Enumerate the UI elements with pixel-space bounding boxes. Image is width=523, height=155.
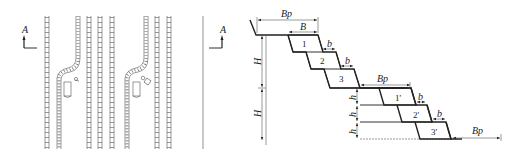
svg-text:3': 3' [431, 127, 438, 137]
svg-text:B: B [300, 21, 306, 32]
track-straight-2 [87, 16, 91, 149]
svg-text:2': 2' [413, 110, 420, 120]
svg-text:1: 1 [302, 39, 307, 49]
track-diverging-1 [57, 16, 80, 149]
svg-text:b: b [437, 108, 442, 119]
track-straight-1 [45, 16, 49, 149]
svg-text:H: H [252, 57, 263, 66]
dim-sub-height-h: h h h [347, 89, 358, 138]
svg-text:Bp: Bp [472, 125, 483, 136]
track-straight-5 [155, 16, 159, 149]
svg-text:A: A [219, 24, 227, 35]
svg-text:b: b [418, 91, 423, 102]
svg-text:h: h [347, 129, 358, 134]
dim-bench-b: B [289, 21, 317, 32]
svg-text:h: h [347, 112, 358, 117]
svg-text:b: b [345, 55, 350, 66]
excavator-icon [141, 76, 151, 85]
svg-text:H: H [252, 109, 263, 118]
ground-surface [250, 20, 288, 35]
dim-berm-b-2: b [341, 55, 353, 66]
dim-berm-b-1: b [323, 38, 335, 49]
lower-benches: 1' 2' 3' [360, 88, 462, 139]
svg-text:A: A [21, 24, 29, 35]
section-marker-right: A [209, 24, 227, 48]
dim-height-h: H H [252, 35, 266, 145]
truck-icon [64, 82, 71, 98]
plan-view: A A [21, 16, 227, 149]
dim-mid-bp: Bp [361, 73, 410, 88]
svg-text:h: h [347, 95, 358, 100]
track-straight-4 [110, 16, 114, 149]
svg-text:2: 2 [320, 56, 325, 66]
section-view: 1 2 3 1' 2' 3' Bp B [250, 8, 501, 145]
svg-text:1': 1' [395, 93, 402, 103]
svg-text:3: 3 [339, 74, 344, 84]
section-marker-left: A [21, 24, 37, 48]
excavator-icon [74, 77, 79, 81]
truck-icon [133, 82, 140, 98]
mining-bench-diagram: A A 1 2 3 [0, 0, 523, 155]
svg-text:Bp: Bp [281, 8, 292, 19]
dim-top-bp: Bp [257, 8, 318, 33]
svg-text:Bp: Bp [377, 73, 388, 84]
track-straight-3 [98, 16, 102, 149]
svg-text:b: b [327, 38, 332, 49]
track-straight-6 [167, 16, 171, 149]
